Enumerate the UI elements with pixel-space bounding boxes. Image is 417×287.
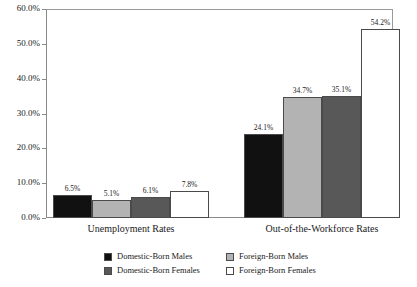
legend-label: Domestic-Born Females <box>117 266 200 275</box>
legend-swatch-icon <box>226 267 234 275</box>
legend-item: Foreign-Born Females <box>226 266 316 275</box>
legend-item: Domestic-Born Females <box>104 266 200 275</box>
bar <box>131 197 170 218</box>
bar <box>322 96 361 218</box>
bar-chart: 0.0%10.0%20.0%30.0%40.0%50.0%60.0% 6.5%5… <box>0 0 417 287</box>
chart-legend: Domestic-Born MalesDomestic-Born Females… <box>104 252 364 282</box>
bar <box>283 97 322 218</box>
bar-value-label: 35.1% <box>316 86 367 94</box>
bar-value-label: 54.2% <box>355 19 406 27</box>
bar-value-label: 7.8% <box>164 181 215 189</box>
legend-label: Domestic-Born Males <box>117 252 192 261</box>
legend-label: Foreign-Born Males <box>239 252 308 261</box>
bar-value-label: 24.1% <box>238 124 289 132</box>
x-axis-label: Out-of-the-Workforce Rates <box>232 223 412 234</box>
bar <box>53 195 92 218</box>
legend-swatch-icon <box>104 267 112 275</box>
legend-item: Foreign-Born Males <box>226 252 308 261</box>
legend-label: Foreign-Born Females <box>239 266 316 275</box>
bar <box>244 134 283 218</box>
x-axis-label: Unemployment Rates <box>41 223 221 234</box>
legend-swatch-icon <box>104 253 112 261</box>
bar <box>170 191 209 218</box>
bar <box>92 200 131 218</box>
bar <box>361 29 400 218</box>
bars-layer: 6.5%5.1%6.1%7.8%24.1%34.7%35.1%54.2% <box>0 0 417 287</box>
legend-swatch-icon <box>226 253 234 261</box>
legend-item: Domestic-Born Males <box>104 252 192 261</box>
